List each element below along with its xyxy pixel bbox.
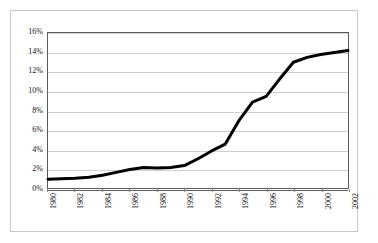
y-tick-label-8%: 8% <box>32 107 43 115</box>
y-tick-label-16%: 16% <box>28 28 43 36</box>
x-tick-1998 <box>294 189 295 192</box>
x-axis-tick-labels: 1980198219841986198819901992199419961998… <box>47 191 349 233</box>
y-tick-label-10%: 10% <box>28 87 43 95</box>
x-tick-1988 <box>157 189 158 192</box>
x-tick-label-1988: 1988 <box>160 193 168 209</box>
x-tick-1994 <box>239 189 240 192</box>
x-tick-label-1992: 1992 <box>215 193 223 209</box>
y-tick-label-6%: 6% <box>32 126 43 134</box>
x-tick-label-1998: 1998 <box>297 193 305 209</box>
y-tick-label-14%: 14% <box>28 48 43 56</box>
plot-area <box>47 32 349 189</box>
x-tick-label-2002: 2002 <box>352 193 360 209</box>
x-tick-1986 <box>129 189 130 192</box>
y-tick-label-2%: 2% <box>32 165 43 173</box>
x-tick-1996 <box>267 189 268 192</box>
y-tick-label-12%: 12% <box>28 67 43 75</box>
data-series-line <box>48 33 348 189</box>
x-tick-label-1996: 1996 <box>270 193 278 209</box>
x-tick-1992 <box>212 189 213 192</box>
x-tick-label-1980: 1980 <box>50 193 58 209</box>
x-tick-2000 <box>322 189 323 192</box>
y-tick-label-0%: 0% <box>32 185 43 193</box>
x-tick-label-1984: 1984 <box>105 193 113 209</box>
x-tick-1980 <box>47 189 48 192</box>
y-axis-tick-labels: 0%2%4%6%8%10%12%14%16% <box>11 32 47 189</box>
y-tick-label-4%: 4% <box>32 146 43 154</box>
x-tick-1984 <box>102 189 103 192</box>
x-tick-1982 <box>74 189 75 192</box>
x-tick-label-1994: 1994 <box>242 193 250 209</box>
x-tick-label-1982: 1982 <box>77 193 85 209</box>
x-tick-label-1990: 1990 <box>187 193 195 209</box>
x-tick-label-2000: 2000 <box>325 193 333 209</box>
x-tick-1990 <box>184 189 185 192</box>
x-tick-label-1986: 1986 <box>132 193 140 209</box>
x-tick-2002 <box>349 189 350 192</box>
chart-figure: 0%2%4%6%8%10%12%14%16% 19801982198419861… <box>10 10 358 232</box>
